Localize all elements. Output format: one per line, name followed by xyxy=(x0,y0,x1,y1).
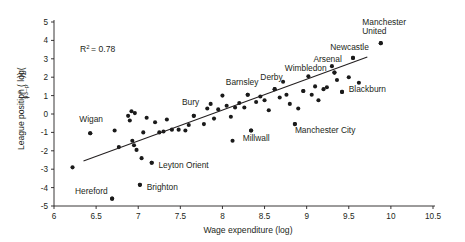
point-label-barnsley: Barnsley xyxy=(226,77,259,87)
data-point xyxy=(225,104,229,108)
y-axis: -5-4-3-2-1012345 xyxy=(41,18,54,211)
svg-text:League position ( log(: League position ( log( xyxy=(16,67,26,150)
point-label-brighton: Brighton xyxy=(147,182,179,192)
data-point xyxy=(128,118,132,122)
data-point-newcastle xyxy=(351,56,355,60)
point-label-wimbledon: Wimbledon xyxy=(285,63,327,73)
y-tick-label: -2 xyxy=(41,147,49,156)
data-point xyxy=(220,94,224,98)
y-tick-label: 3 xyxy=(43,55,48,64)
point-label-hereford: Hereford xyxy=(75,186,108,196)
svg-text:93–p: 93–p xyxy=(22,85,29,99)
data-points xyxy=(70,41,382,201)
data-point xyxy=(325,85,329,89)
point-label-derby: Derby xyxy=(260,72,283,82)
svg-text:p: p xyxy=(15,90,22,94)
data-point-manchester-united xyxy=(379,41,383,45)
y-tick-label: -4 xyxy=(41,184,49,193)
point-label-manchester-city: Manchester City xyxy=(295,125,356,135)
svg-text:R2= 0.78: R2= 0.78 xyxy=(80,44,115,54)
point-labels: HerefordWiganBrightonLeyton OrientBuryBa… xyxy=(75,17,406,196)
y-axis-title-prefix: League position ( log( xyxy=(16,67,26,150)
data-point-hereford xyxy=(110,197,114,201)
data-point xyxy=(113,129,117,133)
data-point xyxy=(231,139,235,143)
y-tick-label: -1 xyxy=(41,128,49,137)
data-point xyxy=(70,165,74,169)
point-label-leyton-orient: Leyton Orient xyxy=(158,160,209,170)
x-tick-label: 9 xyxy=(304,212,309,221)
x-axis-title: Wage expenditure (log) xyxy=(203,225,292,235)
data-point xyxy=(177,128,181,132)
data-point-bury xyxy=(192,114,196,118)
scatter-plot-figure: -5-4-3-2-1012345 66.577.588.599.51010.5 … xyxy=(0,0,465,242)
x-tick-label: 9.5 xyxy=(343,212,355,221)
data-point xyxy=(141,130,145,134)
y-tick-label: -5 xyxy=(41,202,49,211)
data-point-barnsley xyxy=(246,93,250,97)
x-tick-label: 7 xyxy=(136,212,141,221)
data-point xyxy=(288,102,292,106)
y-axis-title-suffix: )) xyxy=(16,72,26,78)
point-label-manchester-united: ManchesterUnited xyxy=(362,17,406,36)
x-tick-label: 8.5 xyxy=(259,212,271,221)
data-point xyxy=(134,148,138,152)
data-point xyxy=(205,106,209,110)
point-label-newcastle: Newcastle xyxy=(330,42,369,52)
y-tick-label: 0 xyxy=(43,110,48,119)
y-axis-title: League position ( log( p 93–p )) xyxy=(15,67,30,150)
svg-text:)): )) xyxy=(16,72,26,78)
data-point xyxy=(347,75,351,79)
data-point-leyton-orient xyxy=(150,161,154,165)
data-point xyxy=(229,115,233,119)
x-axis: 66.577.588.599.51010.5 xyxy=(52,206,442,221)
point-label-wigan: Wigan xyxy=(79,114,103,124)
data-point xyxy=(242,106,246,110)
y-axis-title-numerator: p xyxy=(15,90,22,94)
point-label-blackburn: Blackburn xyxy=(349,84,387,94)
data-point xyxy=(313,84,317,88)
x-tick-label: 10 xyxy=(386,212,396,221)
x-tick-label: 8 xyxy=(220,212,225,221)
x-tick-label: 7.5 xyxy=(175,212,187,221)
data-point xyxy=(316,98,320,102)
data-point xyxy=(254,100,258,104)
data-point xyxy=(187,123,191,127)
y-tick-label: 4 xyxy=(43,36,48,45)
data-point xyxy=(140,156,144,160)
data-point xyxy=(183,129,187,133)
data-point xyxy=(212,117,216,121)
data-point xyxy=(278,95,282,99)
data-point xyxy=(267,108,271,112)
point-label-bury: Bury xyxy=(182,97,200,107)
data-point-wigan xyxy=(88,131,92,135)
data-point-blackburn xyxy=(340,90,344,94)
x-tick-label: 6 xyxy=(52,212,57,221)
data-point xyxy=(335,78,339,82)
data-point xyxy=(133,111,137,115)
point-label-arsenal: Arsenal xyxy=(313,54,342,64)
y-tick-label: 1 xyxy=(43,92,48,101)
y-tick-label: 5 xyxy=(43,18,48,27)
y-axis-title-denominator: 93–p xyxy=(22,85,29,99)
data-point xyxy=(153,120,157,124)
r-squared-exponent: 2 xyxy=(86,44,90,50)
y-tick-label: 2 xyxy=(43,73,48,82)
plot-canvas: -5-4-3-2-1012345 66.577.588.599.51010.5 … xyxy=(0,0,465,242)
data-point-arsenal xyxy=(332,71,336,75)
x-tick-label: 6.5 xyxy=(90,212,102,221)
data-point xyxy=(263,98,267,102)
data-point xyxy=(310,93,314,97)
data-point xyxy=(165,117,169,121)
r-squared-value: = 0.78 xyxy=(91,44,115,54)
data-point-brighton xyxy=(138,183,142,187)
x-tick-label: 10.5 xyxy=(425,212,441,221)
data-point xyxy=(132,143,136,147)
r-squared-annotation: R2= 0.78 xyxy=(80,44,115,54)
data-point-wimbledon xyxy=(301,89,305,93)
data-point xyxy=(126,114,130,118)
data-point xyxy=(284,93,288,97)
data-point xyxy=(330,64,334,68)
data-point xyxy=(145,116,149,120)
data-point xyxy=(296,106,300,110)
